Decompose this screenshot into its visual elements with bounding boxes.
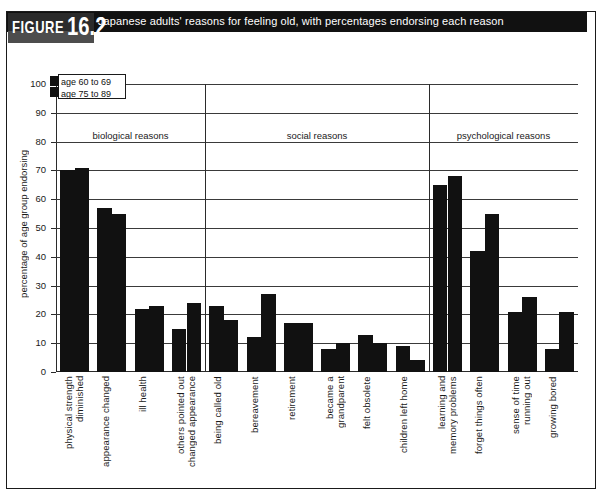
bar [448, 176, 463, 372]
group-heading-biological: biological reasons [71, 130, 191, 141]
bar [508, 312, 523, 372]
bar [97, 208, 112, 372]
legend-item-age-60-69: age 60 to 69 [59, 76, 125, 87]
y-tick-label: 100 [30, 79, 46, 89]
figure-caption: Japanese adults' reasons for feeling old… [98, 15, 568, 28]
bar [224, 320, 239, 372]
x-tick-label: forget things often [474, 376, 485, 484]
bar [470, 251, 485, 372]
y-tick [51, 372, 56, 373]
x-tick-label: others pointed out changed appearance [176, 376, 197, 484]
bar [75, 168, 90, 372]
bar [298, 323, 313, 372]
bar [522, 297, 537, 372]
figure-container: FIGURE 16.2 Japanese adults' reasons for… [0, 0, 605, 499]
legend-label-age-75-89: age 75 to 89 [61, 89, 111, 99]
x-axis-tick-labels: physical strength diminishedappearance c… [56, 376, 578, 488]
legend-swatch-age-60-69 [50, 76, 59, 86]
bar [135, 309, 150, 372]
bar [187, 303, 202, 372]
y-tick-label: 40 [35, 252, 46, 262]
bar [336, 343, 351, 372]
legend-item-age-75-89: age 75 to 89 [59, 88, 125, 99]
plot-area: biological reasons social reasons psycho… [56, 84, 578, 372]
bar [172, 329, 187, 372]
bar [358, 335, 373, 372]
x-tick-label: felt obsolete [362, 376, 373, 484]
bar [433, 185, 448, 372]
x-tick-label: learning and memory problems [437, 376, 458, 484]
legend: age 60 to 69 age 75 to 89 [58, 74, 126, 99]
x-tick-label: sense of time running out [511, 376, 532, 484]
bar [149, 306, 164, 372]
figure-tag: FIGURE 16.2 [12, 14, 110, 40]
x-tick-label: growing bored [548, 376, 559, 484]
bar [247, 337, 262, 372]
bar [112, 214, 127, 372]
figure-tag-word: FIGURE [12, 19, 64, 35]
y-tick-label: 80 [35, 137, 46, 147]
y-tick-label: 70 [35, 165, 46, 175]
y-tick-label: 0 [41, 367, 46, 377]
bar [559, 312, 574, 372]
legend-swatches [49, 75, 59, 98]
y-axis-tick-labels: 0102030405060708090100 [22, 84, 50, 372]
y-tick-label: 30 [35, 281, 46, 291]
x-tick-label: retirement [287, 376, 298, 484]
x-tick-label: became a grandparent [325, 376, 346, 484]
bar [410, 360, 425, 372]
x-tick-label: physical strength diminished [64, 376, 85, 484]
x-tick-label: bereavement [250, 376, 261, 484]
x-tick-label: ill health [138, 376, 149, 484]
bar [545, 349, 560, 372]
bar [373, 343, 388, 372]
bar [261, 294, 276, 372]
bar [321, 349, 336, 372]
y-tick-label: 50 [35, 223, 46, 233]
y-tick-label: 20 [35, 309, 46, 319]
bar [284, 323, 299, 372]
bar [396, 346, 411, 372]
x-tick-label: appearance changed [101, 376, 112, 484]
y-tick-label: 10 [35, 338, 46, 348]
bar-series [56, 84, 578, 372]
legend-label-age-60-69: age 60 to 69 [61, 77, 111, 87]
group-heading-psychological: psychological reasons [443, 130, 563, 141]
bar [209, 306, 224, 372]
y-tick-label: 90 [35, 108, 46, 118]
bar [485, 214, 500, 372]
y-tick-label: 60 [35, 194, 46, 204]
bar [60, 170, 75, 372]
legend-swatch-age-75-89 [50, 87, 59, 97]
group-heading-social: social reasons [257, 130, 377, 141]
x-tick-label: being called old [213, 376, 224, 484]
x-tick-label: children left home [399, 376, 410, 484]
